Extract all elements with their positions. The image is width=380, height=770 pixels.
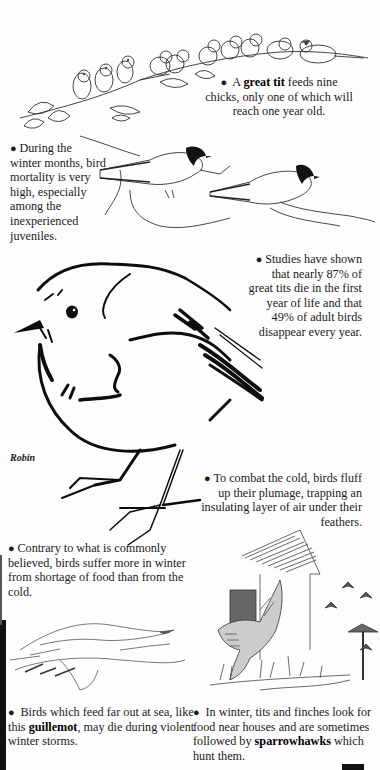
sparrowhawk-house-illustration bbox=[200, 530, 380, 700]
guillemot-illustration bbox=[0, 600, 200, 700]
page-edge-line bbox=[0, 555, 2, 625]
great-tit-fact: A great tit feeds nine chicks, only one … bbox=[205, 75, 353, 119]
guillemot-term: guillemot bbox=[29, 720, 78, 734]
winter-mortality-fact: During the winter months, bird mortality… bbox=[10, 141, 106, 243]
combat-cold-fact: To combat the cold, birds fluff up their… bbox=[196, 471, 362, 529]
sparrowhawk-fact: In winter, tits and finches look for foo… bbox=[193, 705, 379, 763]
studies-fact: Studies have shown that nearly 87% of gr… bbox=[246, 252, 362, 340]
robin-caption: Robin bbox=[10, 452, 35, 463]
guillemot-fact: Birds which feed far out at sea, like th… bbox=[8, 705, 198, 749]
page-edge-bar bbox=[0, 620, 6, 770]
page-corner-mark bbox=[342, 764, 364, 770]
sparrowhawk-term: sparrowhawks bbox=[255, 734, 331, 748]
great-tit-term: great tit bbox=[243, 75, 284, 89]
food-shortage-fact: Contrary to what is commonly believed, b… bbox=[8, 541, 198, 599]
